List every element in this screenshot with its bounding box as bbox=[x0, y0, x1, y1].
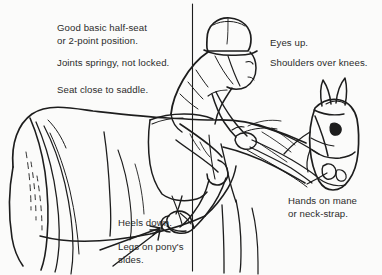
annotation-half-seat: Good basic half-seat or 2-point position… bbox=[57, 21, 147, 48]
rider-cuff bbox=[232, 127, 244, 130]
horse-eye bbox=[330, 123, 341, 135]
rider-chin-strap bbox=[228, 56, 240, 86]
rider-eye bbox=[246, 62, 253, 64]
bridle-noseband bbox=[312, 150, 355, 158]
annotation-seat: Seat close to saddle. bbox=[57, 83, 148, 96]
annotation-shoulders: Shoulders over knees. bbox=[270, 56, 368, 69]
annotation-heels: Heels down. bbox=[118, 216, 172, 229]
horse-tail-1 bbox=[30, 118, 48, 270]
bridle-browband bbox=[314, 110, 344, 115]
horse-hindquarter bbox=[9, 167, 23, 266]
annotation-eyes: Eyes up. bbox=[270, 36, 308, 49]
horse-tail-4 bbox=[50, 133, 79, 254]
horse-flank-line bbox=[104, 132, 111, 236]
rider-calf-front bbox=[194, 178, 226, 228]
horse-front-leg-2 bbox=[252, 208, 258, 274]
bridle-cheekpiece bbox=[315, 116, 328, 156]
horse-jaw bbox=[307, 150, 310, 172]
rider-thigh-bottom bbox=[176, 140, 218, 172]
rider-seat-line bbox=[171, 114, 182, 132]
half-seat-position-figure: Good basic half-seat or 2-point position… bbox=[0, 0, 382, 275]
horse-nostril bbox=[336, 170, 346, 181]
horse-cheek bbox=[311, 138, 334, 146]
helmet-vent bbox=[227, 19, 228, 44]
horse-tail-hair-1 bbox=[26, 152, 31, 210]
rider-thigh-top bbox=[180, 124, 222, 157]
rider-forearm-top bbox=[216, 92, 247, 136]
rein-lower bbox=[250, 147, 312, 183]
horse-tail-hair-2 bbox=[31, 162, 36, 220]
horse-tail-hair-3 bbox=[37, 176, 42, 230]
rider-shirt-fold-3 bbox=[180, 94, 198, 109]
rider-shirt-fold-1 bbox=[196, 70, 208, 87]
helmet-ridge bbox=[213, 21, 245, 26]
annotation-legs: Legs on pony's sides. bbox=[118, 240, 184, 267]
rider-shirt-fold-2 bbox=[188, 82, 203, 99]
horse-barrel-crease bbox=[135, 164, 144, 214]
neck-shade-2 bbox=[256, 141, 287, 162]
horse-front-leg-back bbox=[222, 205, 224, 273]
rider-chin-strap-2 bbox=[215, 56, 233, 84]
horse-forearm bbox=[236, 200, 241, 272]
bit-ring bbox=[322, 164, 336, 179]
annotation-joints: Joints springy, not locked. bbox=[57, 56, 169, 69]
horse-neck-underline bbox=[223, 147, 305, 183]
rider-face bbox=[227, 52, 256, 89]
annotation-hands: Hands on mane or neck-strap. bbox=[288, 194, 357, 221]
rider-helmet bbox=[207, 18, 251, 51]
rider-back bbox=[171, 52, 208, 114]
saddle-flap bbox=[149, 120, 208, 201]
